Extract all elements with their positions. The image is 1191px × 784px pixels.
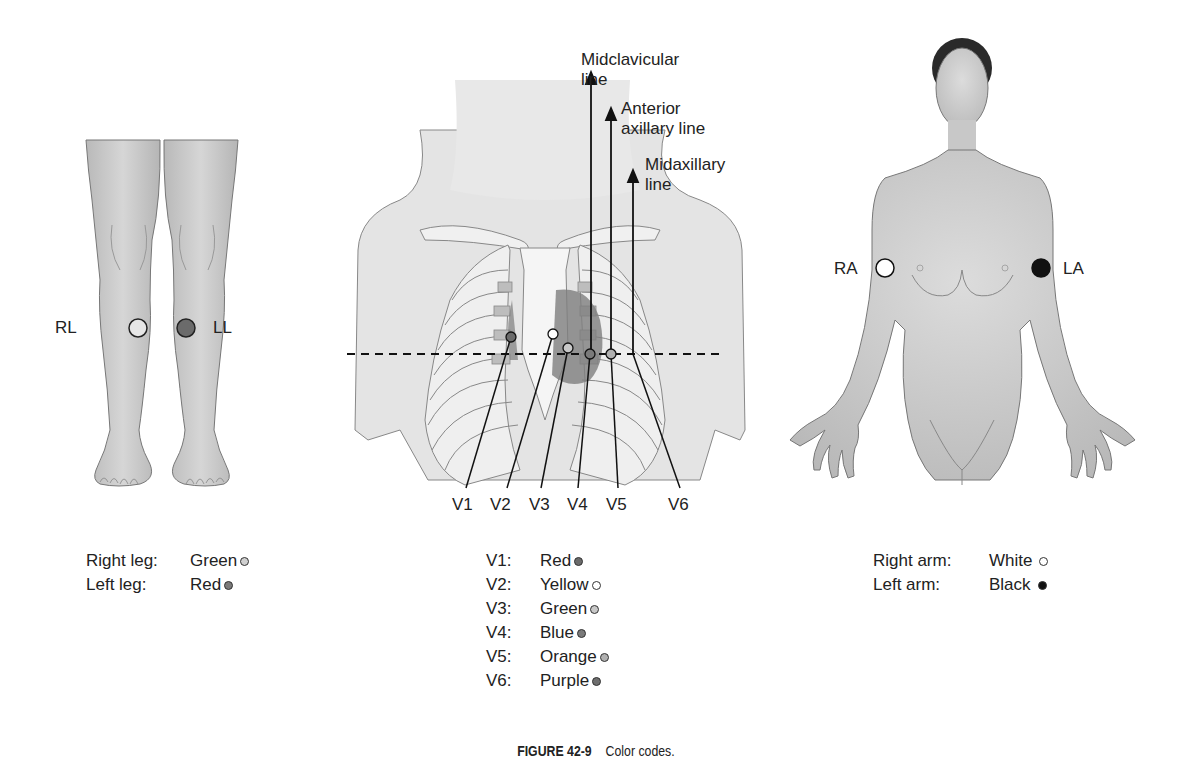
- color-dot-icon: [1038, 581, 1047, 590]
- legend-value: White: [989, 551, 1032, 570]
- figure-caption-text: Color codes.: [605, 742, 674, 759]
- electrode-ra-marker: [876, 259, 894, 277]
- legend-row-left-arm: Left arm: Black: [873, 573, 951, 597]
- arms-legend: Right arm: White Left arm: Black: [873, 549, 951, 597]
- legend-key: Right arm:: [873, 549, 951, 573]
- figure-caption: FIGURE 42-9 Color codes.: [0, 742, 1191, 759]
- legend-row-right-arm: Right arm: White: [873, 549, 951, 573]
- figure-number: FIGURE 42-9: [517, 742, 592, 759]
- legend-value: Black: [989, 575, 1031, 594]
- full-body-illustration: [0, 0, 1191, 784]
- electrode-label-ra: RA: [834, 259, 858, 279]
- electrode-label-la: LA: [1063, 259, 1084, 279]
- color-dot-icon: [1039, 557, 1048, 566]
- legend-key: Left arm:: [873, 573, 940, 597]
- electrode-la-marker: [1032, 259, 1050, 277]
